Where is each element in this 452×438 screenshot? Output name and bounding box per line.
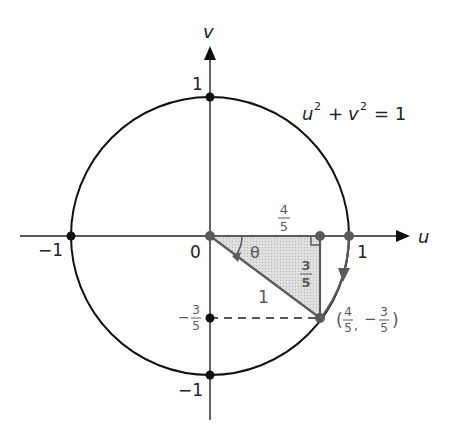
label-vertical-side: 3 5 <box>300 258 312 290</box>
svg-text:5: 5 <box>301 275 310 290</box>
svg-text:5: 5 <box>192 319 200 333</box>
point-v-neg-three-fifths <box>206 314 215 323</box>
svg-text:u: u <box>302 103 313 124</box>
tick-origin: 0 <box>190 242 201 262</box>
point-v-one <box>206 93 215 102</box>
arc-arrow-icon <box>338 268 350 282</box>
svg-text:+: + <box>328 103 343 124</box>
svg-text:v: v <box>348 103 359 124</box>
svg-text:5: 5 <box>380 321 388 335</box>
point-target <box>315 313 325 323</box>
svg-text:4: 4 <box>344 305 352 319</box>
label-hypotenuse: 1 <box>258 287 269 307</box>
u-axis-label: u <box>418 226 429 247</box>
label-v-neg-three-fifths: − 3 5 <box>178 303 201 333</box>
point-origin <box>205 231 215 241</box>
circle-equation: u 2 + v 2 = 1 <box>302 100 406 124</box>
label-theta: θ <box>250 243 260 262</box>
svg-text:,: , <box>354 319 358 333</box>
tick-u-neg-one: −1 <box>38 240 63 260</box>
svg-text:5: 5 <box>280 219 288 234</box>
svg-text:= 1: = 1 <box>374 103 406 124</box>
svg-text:−: − <box>178 309 190 325</box>
svg-text:(: ( <box>336 310 343 330</box>
svg-text:3: 3 <box>380 305 388 319</box>
point-u-neg-one <box>67 232 76 241</box>
svg-text:2: 2 <box>314 100 321 113</box>
label-horizontal-side: 4 5 <box>278 202 290 234</box>
svg-text:5: 5 <box>344 321 352 335</box>
v-axis-arrow-icon <box>204 46 216 60</box>
svg-text:4: 4 <box>280 202 288 217</box>
svg-text:3: 3 <box>301 258 310 273</box>
svg-text:2: 2 <box>360 100 367 113</box>
svg-text:): ) <box>392 310 399 330</box>
svg-text:3: 3 <box>192 303 200 317</box>
u-axis-arrow-icon <box>396 230 410 242</box>
point-corner <box>315 231 325 241</box>
point-v-neg-one <box>206 371 215 380</box>
tick-v-one: 1 <box>192 74 203 94</box>
label-point-coordinates: ( 4 5 , − 3 5 ) <box>336 305 399 335</box>
svg-text:−: − <box>364 310 377 328</box>
tick-v-neg-one: −1 <box>178 380 203 400</box>
point-u-one <box>344 231 354 241</box>
unit-circle-diagram: v u u 2 + v 2 = 1 1 −1 −1 1 0 4 5 3 5 1 … <box>0 0 452 438</box>
v-axis-label: v <box>203 21 214 42</box>
tick-u-one: 1 <box>357 242 368 262</box>
